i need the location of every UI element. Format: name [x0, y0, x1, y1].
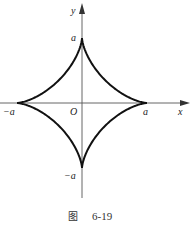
origin-label: O [70, 106, 77, 117]
figure-caption-prefix: 图 [68, 211, 78, 222]
astroid-diagram: y a −a O a x −a 图 6-19 [0, 0, 194, 226]
y-axis-label: y [70, 5, 76, 16]
tick-label-x-neg: −a [3, 106, 15, 117]
tick-label-x-pos: a [143, 106, 148, 117]
y-axis-arrow-icon [79, 3, 85, 14]
x-axis-label: x [177, 106, 183, 117]
figure-caption-number: 6-19 [92, 210, 113, 222]
tick-label-y-pos: a [71, 32, 76, 43]
tick-label-y-neg: −a [64, 170, 76, 181]
